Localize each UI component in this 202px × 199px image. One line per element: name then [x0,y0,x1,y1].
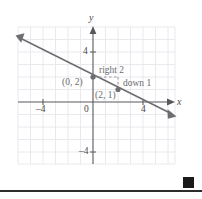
annotation-right-2: right 2 [99,66,124,76]
point-marker-y-intercept [90,74,95,79]
bottom-divider-rule [0,190,202,192]
y-tick-label-4: 4 [83,47,88,57]
annotation-down-1: down 1 [123,79,151,89]
corner-block-marker [183,177,194,188]
y-tick-label-neg4: –4 [79,147,89,157]
point-label-second-point: (2, 1) [95,91,116,101]
x-tick-label-4: 4 [141,105,146,115]
point-marker-second [115,87,120,92]
x-axis-label: x [177,97,181,107]
y-axis-label: y [89,13,93,23]
figure-root: x y –4 0 4 4 –4 (0, 2) (2, 1) right 2 do… [0,0,202,199]
slope-triangle-dashed [94,77,118,89]
x-tick-label-origin: 0 [84,105,89,115]
point-label-y-intercept: (0, 2) [62,78,83,88]
x-tick-label-neg4: –4 [36,105,46,115]
